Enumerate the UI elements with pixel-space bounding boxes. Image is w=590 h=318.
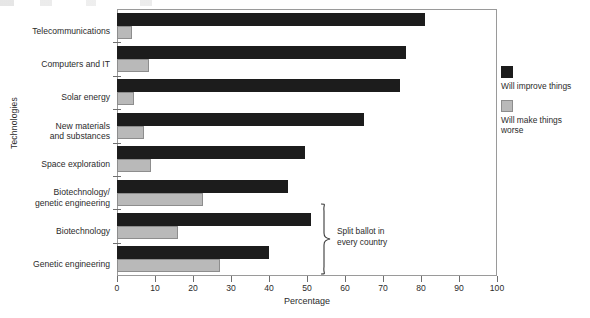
x-axis-tick-label: 10 xyxy=(140,283,170,293)
bar-chart: Technologies TelecommunicationsComputers… xyxy=(0,0,590,318)
y-axis-tick xyxy=(113,42,121,43)
y-axis-tick xyxy=(113,76,121,77)
legend-label: Will improve things xyxy=(501,81,589,91)
bar-improve xyxy=(117,146,305,159)
scan-artifact xyxy=(0,0,590,6)
chart-legend: Will improve thingsWill make things wors… xyxy=(501,66,589,144)
split-ballot-text: Split ballot in every country xyxy=(337,226,447,247)
legend-entry[interactable]: Will improve things xyxy=(501,66,589,91)
category-label-list: TelecommunicationsComputers and ITSolar … xyxy=(12,14,114,276)
bar-worse xyxy=(117,259,220,272)
category-label: Space exploration xyxy=(10,159,110,170)
bar-worse xyxy=(117,26,132,39)
x-axis-tick-label: 70 xyxy=(368,283,398,293)
x-axis-tick-label: 40 xyxy=(254,283,284,293)
bar-improve xyxy=(117,113,364,126)
x-axis-tick xyxy=(345,276,346,282)
legend-entry[interactable]: Will make things worse xyxy=(501,100,589,135)
x-axis-tick xyxy=(383,276,384,282)
category-label: Biotechnology xyxy=(10,226,110,237)
x-axis-title: Percentage xyxy=(117,296,497,306)
x-axis-tick xyxy=(497,276,498,282)
bar-worse xyxy=(117,226,178,239)
x-axis-tick-label: 80 xyxy=(406,283,436,293)
x-axis-tick xyxy=(193,276,194,282)
bar-improve xyxy=(117,46,406,59)
light-square-swatch xyxy=(501,100,513,112)
y-axis-tick xyxy=(113,109,121,110)
x-axis-tick xyxy=(421,276,422,282)
y-axis-tick xyxy=(113,143,121,144)
category-label: New materials and substances xyxy=(10,121,110,142)
bar-worse xyxy=(117,92,134,105)
bar-worse xyxy=(117,126,144,139)
bar-improve xyxy=(117,246,269,259)
x-axis-tick-label: 50 xyxy=(292,283,322,293)
x-axis-tick xyxy=(459,276,460,282)
x-axis-tick-label: 60 xyxy=(330,283,360,293)
curly-brace-icon xyxy=(319,203,333,275)
x-axis-tick-label: 0 xyxy=(102,283,132,293)
category-label: Telecommunications xyxy=(10,26,110,37)
dark-square-swatch xyxy=(501,66,513,78)
category-label: Genetic engineering xyxy=(10,259,110,270)
x-axis-tick xyxy=(269,276,270,282)
y-axis-tick xyxy=(113,243,121,244)
x-axis-tick-label: 90 xyxy=(444,283,474,293)
x-axis-tick-label: 20 xyxy=(178,283,208,293)
category-label: Computers and IT xyxy=(10,59,110,70)
x-axis-tick xyxy=(155,276,156,282)
x-axis-tick xyxy=(231,276,232,282)
bar-worse xyxy=(117,59,149,72)
category-label: Solar energy xyxy=(10,92,110,103)
x-axis-tick-label: 30 xyxy=(216,283,246,293)
x-axis-tick xyxy=(307,276,308,282)
bar-improve xyxy=(117,13,425,26)
bar-improve xyxy=(117,213,311,226)
y-axis-tick xyxy=(113,176,121,177)
category-label: Biotechnology/ genetic engineering xyxy=(10,187,110,208)
bar-improve xyxy=(117,79,400,92)
bar-improve xyxy=(117,180,288,193)
bar-worse xyxy=(117,193,203,206)
x-axis-tick-label: 100 xyxy=(482,283,512,293)
x-axis-tick xyxy=(117,276,118,282)
y-axis-tick xyxy=(113,209,121,210)
split-ballot-annotation: Split ballot in every country xyxy=(319,203,459,275)
bar-worse xyxy=(117,159,151,172)
legend-label: Will make things worse xyxy=(501,115,589,135)
